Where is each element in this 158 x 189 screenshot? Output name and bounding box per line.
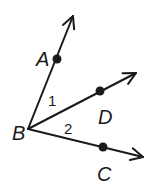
point-d xyxy=(96,87,105,96)
vertex-label-b: B xyxy=(12,122,25,144)
labels: B A D C 1 2 xyxy=(12,48,112,185)
ray-ba xyxy=(28,16,73,129)
point-label-d: D xyxy=(98,106,112,128)
point-c xyxy=(99,143,108,152)
rays xyxy=(28,16,143,160)
point-label-c: C xyxy=(97,163,112,185)
angle-diagram: B A D C 1 2 xyxy=(0,0,158,189)
point-a xyxy=(53,55,62,64)
ray-bd xyxy=(28,73,136,129)
point-label-a: A xyxy=(35,48,49,70)
ray-bc xyxy=(28,129,143,157)
angle-label-1: 1 xyxy=(48,92,56,109)
angle-label-2: 2 xyxy=(64,120,72,137)
